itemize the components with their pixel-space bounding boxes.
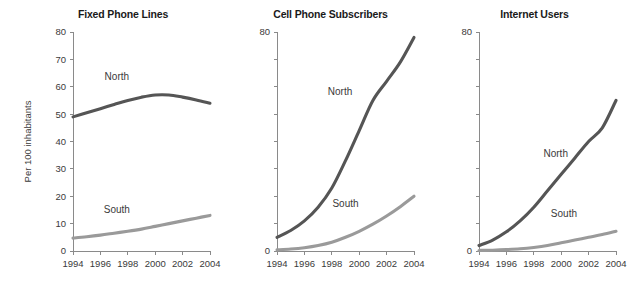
y-tick-label: 20 [55,191,66,202]
y-tick-label: 80 [259,26,270,37]
series-annotation-south: South [104,204,130,215]
x-tick-label: 1994 [266,258,287,269]
y-tick-label: 70 [55,54,66,65]
data-line-south [73,215,210,238]
plot-area: 080199419961998200020022004NorthSouth [222,0,427,290]
chart-panel-internet-users: Internet Users 0801994199619982000200220… [427,0,628,290]
series-annotation-south: South [332,198,358,209]
y-tick-label: 0 [265,245,270,256]
x-tick-label: 1994 [62,258,83,269]
x-tick-label: 1996 [90,258,111,269]
y-tick-label: 30 [55,163,66,174]
x-tick-label: 2000 [551,258,572,269]
figure-chart-panels: Fixed Phone Lines Per 100 inhabitants010… [0,0,628,290]
series-annotation-south: South [551,208,577,219]
y-tick-label: 10 [55,218,66,229]
y-tick-label: 0 [467,245,472,256]
x-tick-label: 1996 [294,258,315,269]
x-tick-label: 2002 [578,258,599,269]
series-annotation-north: North [105,71,129,82]
x-tick-label: 2000 [349,258,370,269]
x-tick-label: 1998 [523,258,544,269]
x-tick-label: 2002 [172,258,193,269]
y-tick-label: 0 [61,245,66,256]
x-tick-label: 2004 [605,258,626,269]
series-annotation-north: North [328,86,352,97]
chart-panel-cell-phone-subscribers: Cell Phone Subscribers 08019941996199820… [222,0,427,290]
plot-area: Per 100 inhabitants010203040506070801994… [0,0,222,290]
x-tick-label: 2002 [376,258,397,269]
data-line-north [479,100,616,245]
y-tick-label: 80 [461,26,472,37]
panel-row: Fixed Phone Lines Per 100 inhabitants010… [0,0,628,290]
y-tick-label: 80 [55,26,66,37]
x-tick-label: 1994 [468,258,489,269]
data-line-north [73,95,210,117]
y-axis-title: Per 100 inhabitants [22,100,33,182]
x-tick-label: 1998 [117,258,138,269]
data-line-south [479,231,616,250]
x-tick-label: 1998 [321,258,342,269]
x-tick-label: 2000 [145,258,166,269]
x-tick-label: 1996 [496,258,517,269]
series-annotation-north: North [543,148,567,159]
x-tick-label: 2004 [199,258,220,269]
y-tick-label: 50 [55,109,66,120]
y-tick-label: 60 [55,81,66,92]
chart-panel-fixed-phone-lines: Fixed Phone Lines Per 100 inhabitants010… [0,0,222,290]
plot-area: 080199419961998200020022004NorthSouth [427,0,628,290]
x-tick-label: 2004 [403,258,424,269]
y-tick-label: 40 [55,136,66,147]
